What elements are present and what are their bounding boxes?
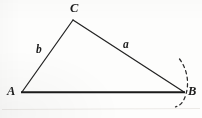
vertex-label-c: C — [70, 2, 78, 15]
vertex-label-a: A — [7, 85, 15, 98]
vertex-label-b: B — [188, 85, 196, 98]
side-label-a: a — [123, 39, 129, 51]
scan-artifact-line — [2, 109, 200, 110]
side-label-b: b — [36, 44, 42, 56]
geometry-figure: C A B b a — [0, 0, 202, 118]
triangle-side-cb — [73, 20, 184, 92]
triangle-side-ac — [22, 20, 73, 92]
triangle-diagram-canvas — [0, 0, 202, 118]
construction-arc-at-b — [176, 59, 188, 107]
